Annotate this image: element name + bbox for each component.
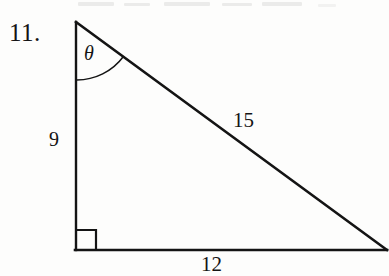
side-hypotenuse — [76, 22, 387, 250]
figure-page: 11. θ 9 15 12 — [0, 0, 389, 276]
problem-number-label: 11. — [9, 20, 41, 45]
side-length-label-horizontal: 12 — [201, 254, 222, 275]
right-angle-marker-icon — [76, 230, 96, 250]
angle-theta-label: θ — [84, 43, 94, 63]
side-length-label-vertical: 9 — [49, 129, 59, 149]
side-length-label-hypotenuse: 15 — [233, 110, 254, 131]
